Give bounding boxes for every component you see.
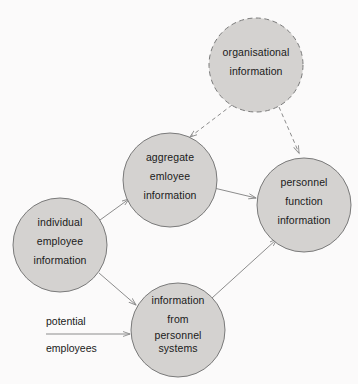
diagram-root: organisational information aggregate eml…: [0, 0, 358, 384]
edge-individual-to-aggregate: [100, 199, 129, 220]
information-from-personnel-systems-node[interactable]: [131, 283, 225, 377]
potential-employees-line-2: employees: [46, 339, 97, 358]
personnel-function-information-node[interactable]: [257, 158, 351, 252]
individual-employee-information-node[interactable]: [13, 198, 107, 292]
edge-organisational-to-personnel-function: [279, 107, 299, 153]
edge-information-from-to-personnel-function: [212, 239, 277, 298]
edge-organisational-to-aggregate: [190, 105, 232, 137]
edge-aggregate-to-personnel-function: [214, 188, 256, 198]
aggregate-employee-information-node[interactable]: [123, 133, 217, 227]
potential-employees-line-1: potential: [46, 312, 97, 331]
organisational-information-node[interactable]: [209, 18, 303, 112]
edge-individual-to-information-from: [99, 273, 136, 305]
potential-employees-label: potential employees: [46, 312, 97, 358]
